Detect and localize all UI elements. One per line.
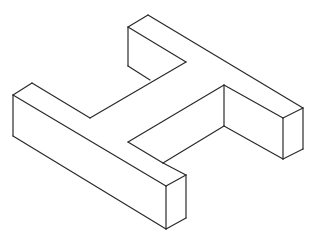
edge-line — [224, 126, 283, 159]
h-block-diagram — [0, 0, 314, 241]
edge-line — [128, 142, 163, 163]
edge-line — [32, 83, 90, 118]
edge-line — [13, 95, 166, 186]
isometric-h-shape — [0, 0, 314, 241]
edge-line — [148, 15, 303, 108]
edge-line — [283, 149, 303, 159]
edge-line — [13, 83, 32, 95]
edge-line — [166, 175, 186, 186]
edge-line — [128, 85, 224, 142]
edge-line — [90, 62, 186, 118]
edge-line — [13, 136, 166, 229]
edge-line — [224, 85, 283, 118]
edge-line — [128, 15, 148, 27]
edge-line — [166, 218, 186, 229]
edge-line — [163, 126, 224, 163]
edge-line — [163, 163, 186, 175]
edge-line — [283, 108, 303, 118]
edge-line — [128, 66, 150, 80]
